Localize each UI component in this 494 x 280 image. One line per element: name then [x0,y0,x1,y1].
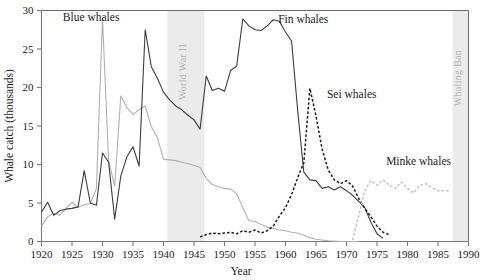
series-annotations: Blue whalesFin whalesSei whalesMinke wha… [63,11,452,166]
x-tick-label-1985: 1985 [427,248,450,260]
plot-background-bands [167,11,468,242]
y-axis-title: Whale catch (thousands) [3,69,16,183]
x-tick-label-1960: 1960 [275,248,298,260]
y-tick-label-15: 15 [23,120,35,132]
x-tick-label-1945: 1945 [183,248,206,260]
x-tick-label-1955: 1955 [244,248,267,260]
series-line-sei-whales [200,88,389,237]
plot-frame [42,11,469,242]
series-label-sei-whales: Sei whales [327,88,377,100]
x-tick-label-1950: 1950 [214,248,237,260]
x-tick-label-1965: 1965 [305,248,328,260]
x-tick-label-1980: 1980 [397,248,420,260]
y-tick-label-5: 5 [28,197,34,209]
x-tick-label-1970: 1970 [336,248,359,260]
band-label-whaling-ban: Whaling Ban [452,50,463,106]
plot-border [42,11,469,242]
y-tick-label-0: 0 [28,235,34,247]
series-label-blue-whales: Blue whales [63,11,120,23]
x-tick-label-1975: 1975 [366,248,389,260]
band-label-world-war-ii: World War II [177,44,188,100]
y-tick-label-30: 30 [23,4,35,16]
y-tick-label-20: 20 [23,81,35,93]
x-tick-label-1940: 1940 [153,248,176,260]
x-tick-label-1935: 1935 [122,248,145,260]
data-series-lines [42,18,451,241]
series-label-fin-whales: Fin whales [278,13,329,25]
band-labels: World War IIWhaling Ban [177,44,463,106]
series-line-fin-whales [42,19,384,238]
chart-canvas: 0510152025301920192519301935194019451950… [0,0,494,280]
axis-titles: YearWhale catch (thousands) [3,69,252,277]
series-label-minke-whales: Minke whales [386,155,451,167]
band-whaling-ban [453,11,469,242]
x-tick-label-1930: 1930 [92,248,115,260]
series-line-minke-whales [353,180,451,240]
y-tick-label-10: 10 [23,158,35,170]
y-tick-label-25: 25 [23,43,35,55]
x-tick-label-1990: 1990 [458,248,481,260]
x-axis-title: Year [230,265,251,277]
x-tick-label-1925: 1925 [61,248,84,260]
whale-catch-chart-figure: 0510152025301920192519301935194019451950… [0,0,494,280]
x-tick-label-1920: 1920 [31,248,54,260]
